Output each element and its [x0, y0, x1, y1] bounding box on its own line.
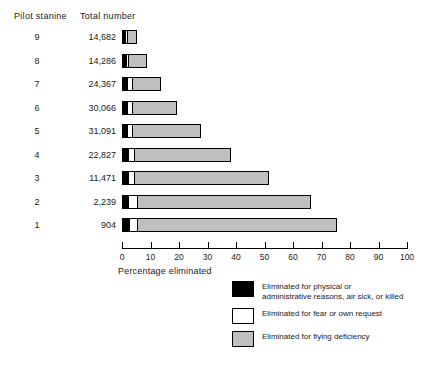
stanine-label: 6 [14, 97, 60, 119]
bar-segment-flying-deficiency [133, 78, 161, 90]
pilot-elimination-chart: Pilot stanine Total number 914,682814,28… [0, 0, 430, 369]
bar-segment-flying-deficiency [128, 31, 136, 43]
bar-segment-flying-deficiency [133, 125, 200, 137]
bar-segment-flying-deficiency [138, 219, 336, 231]
x-axis-tick-label: 0 [120, 252, 125, 262]
stanine-label: 5 [14, 120, 60, 142]
x-axis-tick [208, 242, 209, 249]
x-axis-tick-label: 90 [374, 252, 383, 262]
legend-label: Eliminated for fear or own request [262, 308, 382, 319]
stacked-bar [122, 218, 337, 232]
bar-segment-flying-deficiency [138, 196, 310, 208]
legend-label: Eliminated for flying deficiency [262, 331, 370, 342]
total-number-value: 904 [62, 214, 116, 236]
x-axis-tick-label: 100 [400, 252, 414, 262]
x-axis-tick-label: 30 [203, 252, 212, 262]
stacked-bar [122, 30, 137, 44]
bar-segment-physical [123, 219, 130, 231]
x-axis-tick [350, 242, 351, 249]
legend: Eliminated for physical oradministrative… [232, 281, 428, 354]
x-axis-tick [236, 242, 237, 249]
x-axis-tick-label: 60 [288, 252, 297, 262]
x-axis-tick [407, 242, 408, 249]
legend-label: Eliminated for physical oradministrative… [262, 281, 403, 301]
total-number-value: 14,682 [62, 26, 116, 48]
table-row: 422,827 [0, 144, 430, 166]
total-number-value: 14,286 [62, 50, 116, 72]
x-axis-title: Percentage eliminated [118, 266, 212, 276]
stacked-bar [122, 195, 311, 209]
x-axis-tick [379, 242, 380, 249]
bar-segment-flying-deficiency [135, 172, 268, 184]
legend-item: Eliminated for fear or own request [232, 308, 428, 324]
stanine-label: 3 [14, 167, 60, 189]
stanine-label: 2 [14, 191, 60, 213]
total-number-value: 24,367 [62, 73, 116, 95]
x-axis-tick [293, 242, 294, 249]
legend-swatch-fear-icon [232, 308, 254, 324]
total-number-value: 22,827 [62, 144, 116, 166]
x-axis-tick [151, 242, 152, 249]
table-row: 630,066 [0, 97, 430, 119]
bar-segment-flying-deficiency [135, 149, 230, 161]
stacked-bar [122, 101, 177, 115]
bar-segment-fear [130, 219, 138, 231]
stanine-label: 9 [14, 26, 60, 48]
table-row: 914,682 [0, 26, 430, 48]
table-row: 22,239 [0, 191, 430, 213]
total-number-value: 30,066 [62, 97, 116, 119]
x-axis-tick [122, 242, 123, 249]
x-axis-tick-label: 80 [345, 252, 354, 262]
stanine-label: 4 [14, 144, 60, 166]
x-axis-tick-label: 20 [174, 252, 183, 262]
bar-segment-flying-deficiency [129, 55, 146, 67]
x-axis-tick [179, 242, 180, 249]
legend-item: Eliminated for flying deficiency [232, 331, 428, 347]
x-axis-tick-label: 70 [317, 252, 326, 262]
stacked-bar [122, 124, 201, 138]
total-number-value: 11,471 [62, 167, 116, 189]
table-row: 1904 [0, 214, 430, 236]
total-number-value: 2,239 [62, 191, 116, 213]
x-axis-tick-label: 40 [231, 252, 240, 262]
stanine-label: 1 [14, 214, 60, 236]
stacked-bar [122, 77, 161, 91]
legend-swatch-physical-icon [232, 281, 254, 297]
bar-segment-flying-deficiency [133, 102, 176, 114]
x-axis-tick [322, 242, 323, 249]
stanine-label: 8 [14, 50, 60, 72]
x-axis-tick [265, 242, 266, 249]
bar-segment-fear [129, 196, 138, 208]
stacked-bar [122, 54, 147, 68]
legend-swatch-flying-deficiency-icon [232, 331, 254, 347]
total-number-value: 31,091 [62, 120, 116, 142]
x-axis-tick-label: 10 [146, 252, 155, 262]
table-row: 724,367 [0, 73, 430, 95]
table-row: 311,471 [0, 167, 430, 189]
stacked-bar [122, 171, 269, 185]
legend-item: Eliminated for physical oradministrative… [232, 281, 428, 301]
stanine-label: 7 [14, 73, 60, 95]
table-row: 531,091 [0, 120, 430, 142]
x-axis-tick-label: 50 [260, 252, 269, 262]
stacked-bar [122, 148, 231, 162]
table-row: 814,286 [0, 50, 430, 72]
